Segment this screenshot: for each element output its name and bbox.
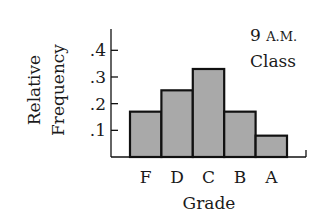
bar-F bbox=[130, 112, 161, 157]
y-tick-label: .3 bbox=[90, 67, 106, 87]
histogram-chart: .1.2.3.4 FDCBA Grade Relative Frequency … bbox=[0, 0, 324, 219]
y-tick-label: .4 bbox=[90, 40, 106, 60]
x-tick-label: D bbox=[170, 167, 184, 187]
y-axis-label-line2: Frequency bbox=[48, 44, 68, 136]
x-tick-label: B bbox=[234, 167, 247, 187]
bar-C bbox=[193, 69, 224, 157]
x-tick-label: C bbox=[202, 167, 215, 187]
annotation-line1: 9 bbox=[250, 25, 266, 45]
x-tick-label: A bbox=[264, 167, 278, 187]
annotation-am: A.M. bbox=[265, 29, 297, 44]
bar-D bbox=[161, 90, 192, 157]
bar-B bbox=[224, 112, 255, 157]
x-tick-labels-group: FDCBA bbox=[140, 167, 278, 187]
y-ticks-group: .1.2.3.4 bbox=[90, 40, 118, 140]
y-tick-label: .1 bbox=[90, 120, 106, 140]
x-axis-label: Grade bbox=[183, 193, 236, 213]
bar-A bbox=[256, 136, 287, 157]
annotation-class: Class bbox=[250, 51, 296, 71]
y-axis-label-line1: Relative bbox=[24, 55, 44, 125]
bars-group bbox=[130, 69, 287, 157]
x-tick-label: F bbox=[140, 167, 152, 187]
annotation-time: 9 A.M. bbox=[250, 25, 297, 45]
y-tick-label: .2 bbox=[90, 94, 106, 114]
